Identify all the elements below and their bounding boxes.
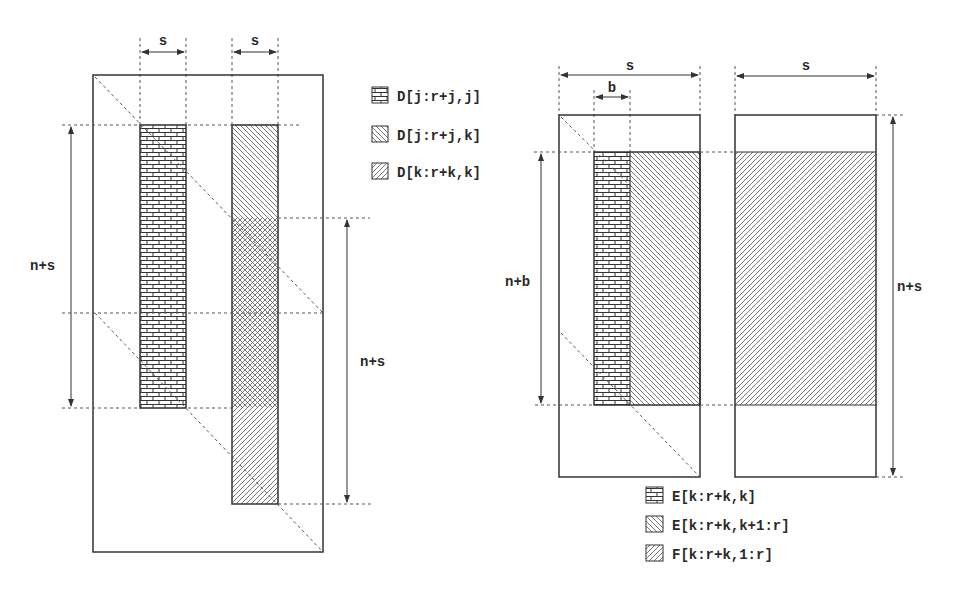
legend-right-item-3: F[k:r+k,1:r] [672,547,773,563]
block-hatch-back-right [630,152,700,405]
label-col2-width: s [251,33,259,49]
label-col1-width: s [159,33,167,49]
label-right-right-height: n+s [897,279,922,295]
label-second-block-width: s [802,58,810,74]
block-hatch-forward-right [735,152,876,405]
legend-right: E[k:r+k,k] E[k:r+k,k+1:r] F[k:r+k,1:r] [646,487,790,563]
matrix-block-diagram: s s n+s n+s D[j:r+j,j] [0,0,957,591]
label-left-height: n+s [30,258,55,274]
label-block-width: s [626,58,634,74]
block-hatch-back-left [232,125,278,218]
label-right-left-height: n+b [505,274,530,290]
label-inner-width: b [608,80,616,96]
block-hatch-forward-left [232,408,278,504]
label-right-height: n+s [360,354,385,370]
legend-right-item-2: E[k:r+k,k+1:r] [672,518,790,534]
legend-left: D[j:r+j,j] D[j:r+j,k] D[k:r+k,k] [372,87,481,181]
legend-left-item-2: D[j:r+j,k] [397,128,481,144]
right-panel: s b s n+b n+s [505,58,922,563]
left-panel: s s n+s n+s D[j:r+j,j] [30,33,481,552]
legend-left-item-3: D[k:r+k,k] [397,165,481,181]
block-brick-left [140,125,186,408]
legend-right-item-1: E[k:r+k,k] [672,489,756,505]
legend-left-item-1: D[j:r+j,j] [397,89,481,105]
block-brick-right [594,152,630,405]
